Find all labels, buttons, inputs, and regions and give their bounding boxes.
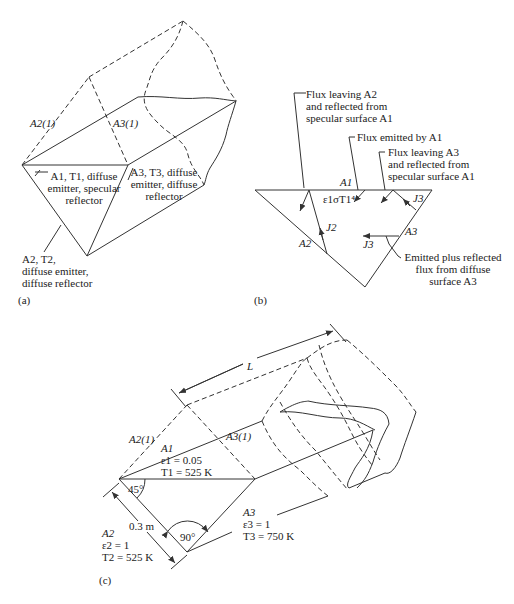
label-a3-description: A3, T3, diffuse emitter, diffuse reflect…	[128, 166, 200, 202]
label-a2-description: A2, T2, diffuse emitter, diffuse reflect…	[22, 253, 92, 289]
label-a1-properties: A1 ε1 = 0.05 T1 = 525 K	[161, 442, 212, 478]
panel-c-tag: (c)	[99, 574, 111, 586]
label-j2: J2	[326, 221, 336, 233]
label-length: L	[247, 360, 253, 372]
label-emitted-reflected: Emitted plus reflected flux from diffuse…	[401, 251, 505, 287]
panel-a-drawing	[22, 21, 236, 256]
label-a1-description: A1, T1, diffuse emitter, specular reflec…	[44, 170, 124, 206]
label-a2-1: A2(1)	[30, 117, 55, 129]
label-a1: A1	[340, 176, 352, 188]
label-j3-mid: J3	[363, 238, 373, 250]
label-a3-1: A3(1)	[113, 117, 138, 129]
label-angle-90: 90°	[180, 531, 195, 543]
label-a2-1-c: A2(1)	[129, 433, 154, 445]
label-a2: A2	[299, 237, 311, 249]
label-j3-top: J3	[413, 192, 423, 204]
panel-b-tag: (b)	[254, 294, 267, 306]
label-flux-leaving-a3: Flux leaving A3 and reflected from specu…	[388, 146, 475, 182]
label-angle-45: 45°	[128, 483, 143, 495]
label-flux-leaving-a2: Flux leaving A2 and reflected from specu…	[306, 88, 393, 124]
label-a2-properties: A2 ε2 = 1 T2 = 525 K	[102, 527, 153, 563]
panel-a-tag: (a)	[18, 294, 30, 306]
label-flux-emitted: Flux emitted by A1	[357, 131, 442, 143]
label-a3-1-c: A3(1)	[226, 430, 251, 442]
label-a3: A3	[405, 225, 417, 237]
label-a3-properties: A3 ε3 = 1 T3 = 750 K	[243, 506, 294, 542]
label-emission: ε1σT1⁴	[323, 193, 355, 205]
